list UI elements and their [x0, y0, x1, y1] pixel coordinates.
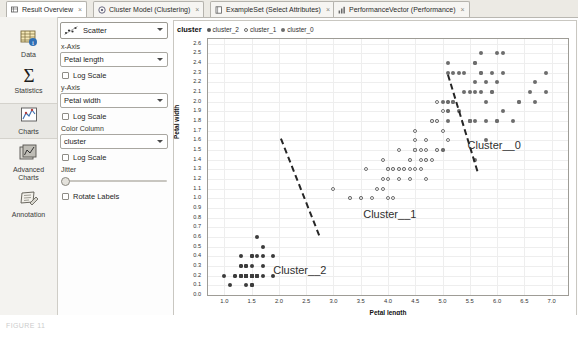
- scatter-point-cluster_2[interactable]: [239, 254, 243, 258]
- sidebar-item-statistics[interactable]: Σ Statistics: [0, 65, 57, 95]
- scatter-point-cluster_0[interactable]: [473, 90, 477, 94]
- scatter-point-cluster_1[interactable]: [408, 158, 412, 162]
- scatter-point-cluster_1[interactable]: [413, 138, 417, 142]
- scatter-point-cluster_2[interactable]: [233, 274, 237, 278]
- jitter-slider-knob[interactable]: [61, 177, 70, 186]
- scatter-point-cluster_0[interactable]: [462, 90, 466, 94]
- tab-exampleset[interactable]: ExampleSet (Select Attributes) ×: [210, 1, 335, 17]
- scatter-point-cluster_2[interactable]: [255, 274, 259, 278]
- scatter-point-cluster_1[interactable]: [441, 129, 445, 133]
- scatter-point-cluster_1[interactable]: [424, 177, 428, 181]
- y-log-scale-checkbox[interactable]: Log Scale: [62, 112, 172, 121]
- scatter-point-cluster_2[interactable]: [261, 245, 265, 249]
- checkbox-box[interactable]: [62, 72, 69, 79]
- scatter-point-cluster_1[interactable]: [413, 129, 417, 133]
- scatter-point-cluster_0[interactable]: [446, 109, 450, 113]
- scatter-point-cluster_1[interactable]: [359, 196, 363, 200]
- legend-item-cluster-1[interactable]: cluster_1: [244, 26, 276, 33]
- scatter-point-cluster_1[interactable]: [381, 158, 385, 162]
- x-log-scale-checkbox[interactable]: Log Scale: [62, 71, 172, 80]
- tab-performance-vector[interactable]: PerformanceVector (Performance) ×: [333, 1, 470, 17]
- scatter-point-cluster_1[interactable]: [386, 196, 390, 200]
- scatter-point-cluster_1[interactable]: [408, 177, 412, 181]
- scatter-point-cluster_2[interactable]: [244, 283, 248, 287]
- scatter-point-cluster_0[interactable]: [473, 80, 477, 84]
- scatter-point-cluster_2[interactable]: [228, 283, 232, 287]
- scatter-point-cluster_0[interactable]: [457, 71, 461, 75]
- scatter-point-cluster_0[interactable]: [473, 61, 477, 65]
- scatter-point-cluster_0[interactable]: [451, 71, 455, 75]
- tab-close-icon[interactable]: ×: [78, 6, 82, 13]
- scatter-point-cluster_2[interactable]: [261, 264, 265, 268]
- checkbox-box[interactable]: [62, 113, 69, 120]
- scatter-point-cluster_0[interactable]: [446, 61, 450, 65]
- scatter-point-cluster_1[interactable]: [386, 177, 390, 181]
- scatter-point-cluster_1[interactable]: [391, 167, 395, 171]
- scatter-point-cluster_1[interactable]: [419, 148, 423, 152]
- tab-close-icon[interactable]: ×: [195, 6, 199, 13]
- scatter-point-cluster_2[interactable]: [250, 254, 254, 258]
- scatter-point-cluster_2[interactable]: [239, 264, 243, 268]
- scatter-point-cluster_0[interactable]: [511, 119, 515, 123]
- scatter-point-cluster_2[interactable]: [239, 274, 243, 278]
- scatter-point-cluster_0[interactable]: [484, 100, 488, 104]
- scatter-point-cluster_2[interactable]: [222, 274, 226, 278]
- scatter-point-cluster_0[interactable]: [441, 100, 445, 104]
- scatter-point-cluster_0[interactable]: [501, 109, 505, 113]
- scatter-point-cluster_1[interactable]: [435, 119, 439, 123]
- scatter-point-cluster_2[interactable]: [250, 283, 254, 287]
- scatter-point-cluster_1[interactable]: [441, 109, 445, 113]
- scatter-point-cluster_0[interactable]: [490, 90, 494, 94]
- scatter-point-cluster_0[interactable]: [528, 90, 532, 94]
- rotate-labels-checkbox[interactable]: Rotate Labels: [62, 192, 172, 201]
- checkbox-box[interactable]: [62, 154, 69, 161]
- color-log-scale-checkbox[interactable]: Log Scale: [62, 153, 172, 162]
- scatter-point-cluster_0[interactable]: [501, 71, 505, 75]
- scatter-point-cluster_1[interactable]: [381, 187, 385, 191]
- scatter-point-cluster_1[interactable]: [424, 148, 428, 152]
- scatter-point-cluster_0[interactable]: [517, 100, 521, 104]
- scatter-point-cluster_1[interactable]: [402, 167, 406, 171]
- scatter-point-cluster_1[interactable]: [391, 196, 395, 200]
- scatter-point-cluster_0[interactable]: [479, 51, 483, 55]
- scatter-point-cluster_1[interactable]: [419, 158, 423, 162]
- scatter-point-cluster_0[interactable]: [495, 119, 499, 123]
- scatter-point-cluster_1[interactable]: [435, 148, 439, 152]
- checkbox-box[interactable]: [62, 193, 69, 200]
- scatter-point-cluster_1[interactable]: [364, 167, 368, 171]
- scatter-point-cluster_0[interactable]: [544, 90, 548, 94]
- sidebar-item-annotation[interactable]: Annotation: [0, 189, 57, 219]
- scatter-point-cluster_2[interactable]: [255, 235, 259, 239]
- x-axis-select[interactable]: Petal length: [60, 52, 168, 67]
- scatter-point-cluster_0[interactable]: [490, 71, 494, 75]
- y-axis-select[interactable]: Petal width: [60, 93, 168, 108]
- scatter-point-cluster_2[interactable]: [261, 274, 265, 278]
- sidebar-item-charts[interactable]: Charts: [0, 103, 57, 139]
- tab-result-overview[interactable]: Result Overview ×: [6, 1, 87, 17]
- scatter-point-cluster_1[interactable]: [375, 187, 379, 191]
- scatter-point-cluster_1[interactable]: [419, 167, 423, 171]
- scatter-point-cluster_0[interactable]: [473, 119, 477, 123]
- scatter-point-cluster_1[interactable]: [331, 187, 335, 191]
- scatter-point-cluster_0[interactable]: [468, 119, 472, 123]
- scatter-point-cluster_1[interactable]: [370, 196, 374, 200]
- scatter-point-cluster_1[interactable]: [397, 148, 401, 152]
- chevron-down-icon[interactable]: [157, 28, 163, 31]
- scatter-point-cluster_2[interactable]: [271, 254, 275, 258]
- chevron-down-icon[interactable]: [157, 99, 163, 102]
- legend-item-cluster-2[interactable]: cluster_2: [207, 26, 239, 33]
- scatter-point-cluster_0[interactable]: [462, 71, 466, 75]
- scatter-point-cluster_0[interactable]: [484, 80, 488, 84]
- scatter-point-cluster_1[interactable]: [386, 167, 390, 171]
- scatter-point-cluster_0[interactable]: [479, 90, 483, 94]
- jitter-slider[interactable]: [61, 176, 167, 185]
- scatter-point-cluster_0[interactable]: [533, 100, 537, 104]
- scatter-point-cluster_1[interactable]: [413, 167, 417, 171]
- scatter-point-cluster_1[interactable]: [381, 177, 385, 181]
- scatter-point-cluster_1[interactable]: [397, 177, 401, 181]
- scatter-plot-area[interactable]: Cluster__0Cluster__1Cluster__2: [207, 38, 569, 296]
- scatter-point-cluster_2[interactable]: [244, 264, 248, 268]
- scatter-point-cluster_0[interactable]: [479, 71, 483, 75]
- scatter-point-cluster_1[interactable]: [424, 158, 428, 162]
- scatter-point-cluster_2[interactable]: [255, 254, 259, 258]
